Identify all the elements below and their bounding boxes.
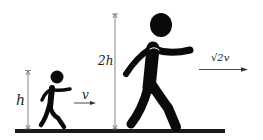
big-height-label: 2h [98,55,113,67]
ground-line [15,129,225,133]
diagram: h 2h v √2v [0,0,263,140]
big-velocity-label: √2v [211,53,229,63]
small-person-icon [41,71,70,128]
height-2h-arrow [112,14,118,129]
large-person-icon [126,13,190,127]
small-height-label: h [16,93,25,107]
height-h-arrow [25,71,31,130]
small-velocity-label: v [82,89,89,101]
large-velocity-arrow [199,67,248,71]
